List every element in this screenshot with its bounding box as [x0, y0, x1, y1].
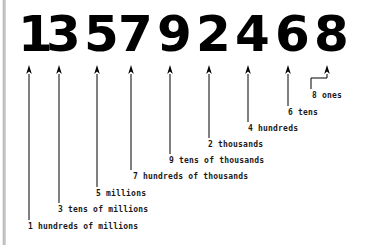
arrow-0 [26, 65, 32, 220]
digit-4: 9 [157, 8, 183, 60]
arrow-head-8 [324, 65, 330, 74]
digit-8: 8 [314, 8, 340, 60]
digit-1: 3 [46, 8, 72, 60]
arrow-head-3 [128, 65, 134, 74]
arrow-head-4 [167, 65, 173, 74]
place-value-label-2: 5 millions [96, 189, 146, 199]
arrow-7 [285, 65, 291, 106]
place-value-label-5: 2 thousands [208, 140, 263, 150]
place-value-label-7: 6 tens [288, 108, 318, 118]
arrow-4 [167, 65, 173, 154]
digit-5: 2 [196, 8, 222, 60]
number-row: 135792468 [0, 8, 368, 60]
place-value-label-4: 9 tens of thousands [169, 156, 264, 166]
arrow-head-2 [94, 65, 100, 74]
arrow-8 [311, 65, 330, 89]
place-value-label-8: 8 ones [312, 91, 342, 101]
place-value-label-3: 7 hundreds of thousands [133, 172, 248, 182]
arrow-head-6 [245, 65, 251, 74]
place-value-diagram: 135792468 1 hundreds of millions3 tens o… [0, 0, 368, 245]
digit-0: 1 [18, 8, 44, 60]
digit-3: 7 [118, 8, 144, 60]
arrow-head-0 [26, 65, 32, 74]
arrow-6 [245, 65, 251, 122]
arrow-5 [206, 65, 212, 138]
place-value-label-0: 1 hundreds of millions [28, 222, 138, 232]
arrow-3 [128, 65, 134, 170]
digit-2: 5 [84, 8, 110, 60]
arrow-2 [94, 65, 100, 187]
arrow-1 [56, 65, 62, 203]
arrow-head-7 [285, 65, 291, 74]
place-value-label-6: 4 hundreds [248, 124, 298, 134]
arrow-head-1 [56, 65, 62, 74]
digit-7: 6 [275, 8, 301, 60]
digit-6: 4 [235, 8, 261, 60]
arrow-head-5 [206, 65, 212, 74]
place-value-label-1: 3 tens of millions [58, 205, 148, 215]
